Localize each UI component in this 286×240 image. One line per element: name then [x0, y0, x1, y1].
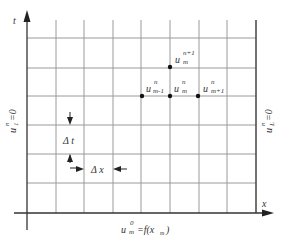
- svg-text:n+1: n+1: [183, 49, 195, 57]
- svg-text:u: u: [121, 224, 126, 235]
- svg-text:u: u: [175, 54, 180, 65]
- initial-condition-label: u 0 m =f(x m ): [121, 219, 170, 236]
- node-u-m-n1: [168, 65, 172, 69]
- svg-text:=0: =0: [7, 109, 18, 121]
- x-axis-arrow-icon: [262, 210, 274, 217]
- t-axis-label: t: [13, 15, 16, 26]
- svg-text:m-1: m-1: [153, 87, 164, 95]
- node-u-m+1-n: [196, 94, 200, 98]
- svg-text:n: n: [182, 78, 186, 86]
- svg-text:): ): [165, 224, 170, 236]
- svg-text:m+1: m+1: [211, 87, 224, 95]
- svg-text:u: u: [203, 83, 208, 94]
- svg-text:n: n: [154, 78, 158, 86]
- svg-text:n: n: [3, 122, 11, 126]
- svg-text:m: m: [160, 230, 165, 236]
- finite-difference-grid-diagram: t x u n+1 m u n m-1 u n m u n m+1 u n 1 …: [0, 0, 286, 240]
- svg-text:n: n: [211, 78, 215, 86]
- node-label-u-m-1-n: u n m-1: [146, 78, 164, 95]
- svg-text:=0: =0: [263, 109, 274, 121]
- delta-t-indicator: Δ t: [62, 112, 74, 163]
- grid-vertical-lines: [56, 20, 227, 213]
- svg-text:m: m: [182, 87, 187, 95]
- left-boundary-label: u n 1 =0: [3, 109, 20, 133]
- svg-text:u: u: [7, 128, 18, 133]
- svg-text:u: u: [263, 128, 274, 133]
- delta-x-left-arrow-icon: [113, 166, 121, 172]
- node-u-m-n: [168, 94, 172, 98]
- delta-x-right-arrow-icon: [76, 166, 84, 172]
- node-label-u-m-n: u n m: [174, 78, 187, 95]
- svg-text:1: 1: [12, 123, 20, 127]
- node-u-m-1-n: [140, 94, 144, 98]
- node-label-u-m+1-n: u n m+1: [203, 78, 224, 95]
- svg-text:m: m: [129, 228, 134, 236]
- delta-t-label: Δ t: [62, 135, 74, 146]
- node-label-u-m-n1: u n+1 m: [175, 49, 195, 66]
- delta-t-down-arrow-icon: [67, 117, 73, 125]
- delta-x-label: Δ x: [90, 164, 104, 175]
- svg-text:0: 0: [130, 219, 134, 227]
- svg-text:u: u: [174, 83, 179, 94]
- svg-text:m: m: [183, 58, 188, 66]
- svg-text:L: L: [268, 122, 276, 127]
- delta-t-up-arrow-icon: [67, 154, 73, 162]
- svg-text:n: n: [259, 122, 267, 126]
- svg-text:u: u: [146, 83, 151, 94]
- right-boundary-label: u n L =0: [259, 109, 276, 133]
- x-axis-label: x: [261, 198, 267, 209]
- delta-x-indicator: Δ x: [70, 164, 127, 175]
- svg-text:=f(x: =f(x: [137, 224, 155, 236]
- t-axis-arrow-icon: [24, 10, 31, 22]
